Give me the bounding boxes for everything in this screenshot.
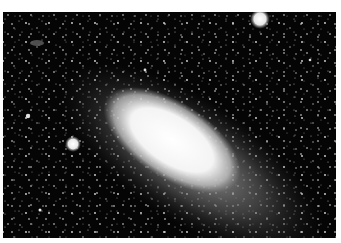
faint-galaxy-top-left [30,40,44,46]
companion-galaxy-left [65,136,81,152]
galaxy-photo [3,12,336,238]
